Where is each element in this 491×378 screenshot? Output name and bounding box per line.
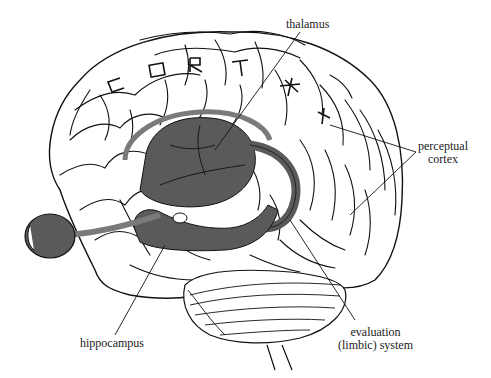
mammillary-body (173, 213, 187, 223)
thalamus-label: thalamus (286, 18, 329, 31)
thalamus-text: thalamus (286, 17, 329, 31)
olfactory-bulb (25, 214, 75, 258)
hippocampus-label: hippocampus (80, 337, 144, 350)
brain-diagram: thalamus perceptual cortex hippocampus e… (0, 0, 491, 378)
brain-illustration (0, 0, 491, 378)
brainstem (267, 345, 292, 370)
cerebellum (184, 270, 346, 343)
perceptual-cortex-label: perceptual cortex (418, 140, 468, 166)
evaluation-line2: (limbic) system (338, 339, 413, 352)
perceptual-cortex-line2: cortex (418, 153, 468, 166)
hippocampus-text: hippocampus (80, 336, 144, 350)
evaluation-system-label: evaluation (limbic) system (338, 326, 413, 352)
